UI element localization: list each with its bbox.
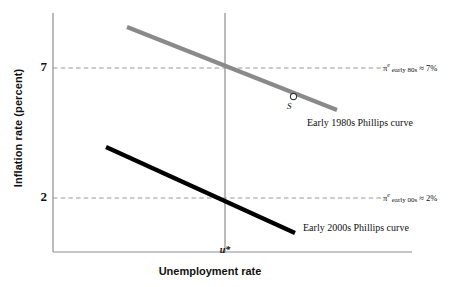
pi-value-1980s: ≈ 7% <box>417 63 437 73</box>
curve-label-early-1980s: Early 1980s Phillips curve <box>307 117 413 128</box>
y-tick-label-2: 2 <box>27 189 47 205</box>
y-axis-title: Inflation rate (percent) <box>12 28 24 228</box>
point-s-label: S <box>287 101 292 111</box>
annotation-expected-inflation-2000s: πe early 00s ≈ 2% <box>383 192 437 204</box>
curve-early-1980s <box>127 27 337 110</box>
phillips-curve-figure: Inflation rate (percent) Unemployment ra… <box>0 0 458 287</box>
point-s-marker <box>290 93 296 99</box>
pi-value-2000s: ≈ 2% <box>417 193 437 203</box>
pi-subscript-2000s: early 00s <box>390 196 417 204</box>
pi-subscript-1980s: early 80s <box>390 66 417 74</box>
curve-label-early-2000s: Early 2000s Phillips curve <box>303 222 409 233</box>
x-tick-label-ustar: u* <box>205 244 245 255</box>
curve-early-2000s <box>106 147 295 233</box>
y-tick-label-7: 7 <box>27 59 47 75</box>
annotation-expected-inflation-1980s: πe early 80s ≈ 7% <box>383 62 437 74</box>
x-axis-title: Unemployment rate <box>0 265 420 277</box>
